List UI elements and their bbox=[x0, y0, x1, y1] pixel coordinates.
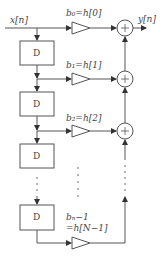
gain-2 bbox=[72, 125, 90, 137]
coef-0-label: b₀=h[0] bbox=[66, 8, 101, 18]
delay-label-1: D bbox=[33, 48, 40, 58]
output-label: y[n] bbox=[138, 14, 156, 24]
delay-label-4: D bbox=[33, 212, 40, 222]
delay-label-2: D bbox=[33, 99, 40, 109]
coef-1-label: b₁=h[1] bbox=[66, 60, 101, 70]
coef-n-1-label-line2: =h[N−1] bbox=[66, 223, 108, 233]
input-label: x[n] bbox=[10, 15, 28, 25]
delay-label-3: D bbox=[33, 151, 40, 161]
coef-2-label: b₂=h[2] bbox=[66, 113, 101, 123]
gain-n-1 bbox=[72, 237, 90, 249]
gain-1 bbox=[72, 73, 90, 85]
coef-n-1-label-line1: bₙ−1 bbox=[66, 212, 89, 222]
gain-0 bbox=[72, 22, 90, 34]
